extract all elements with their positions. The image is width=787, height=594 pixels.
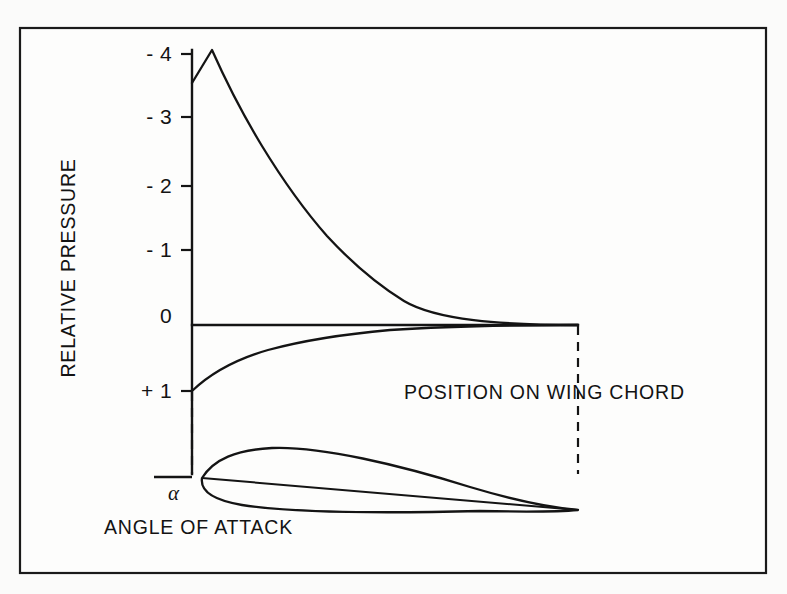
pressure-distribution-figure: - 4 - 3 - 2 - 1 0 + 1 RELATIVE PRESSURE … <box>0 0 787 594</box>
y-tick-label-minus-1: - 1 <box>146 238 172 261</box>
x-axis-caption: POSITION ON WING CHORD <box>404 381 685 403</box>
angle-of-attack-caption: ANGLE OF ATTACK <box>104 516 293 538</box>
y-tick-label-minus-4: - 4 <box>146 42 172 65</box>
y-tick-label-minus-2: - 2 <box>146 174 172 197</box>
y-tick-label-minus-3: - 3 <box>146 105 172 128</box>
y-tick-label-plus-1: + 1 <box>141 379 172 402</box>
alpha-symbol-label: α <box>168 481 180 505</box>
figure-canvas: - 4 - 3 - 2 - 1 0 + 1 RELATIVE PRESSURE … <box>0 0 787 594</box>
y-axis-caption: RELATIVE PRESSURE <box>57 158 79 377</box>
y-tick-label-zero: 0 <box>160 304 172 327</box>
